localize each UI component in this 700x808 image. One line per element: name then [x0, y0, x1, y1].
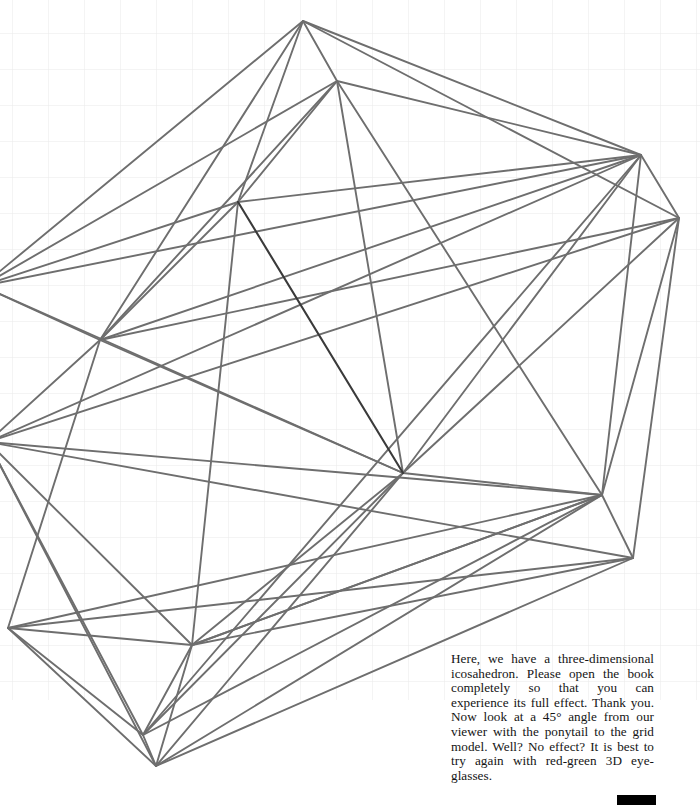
page-marker-bar: [617, 795, 656, 805]
book-page: Here, we have a three-dimensional icosah…: [0, 0, 700, 808]
figure-caption: Here, we have a three-dimensional icosah…: [451, 652, 654, 783]
grid-background: [0, 0, 700, 700]
